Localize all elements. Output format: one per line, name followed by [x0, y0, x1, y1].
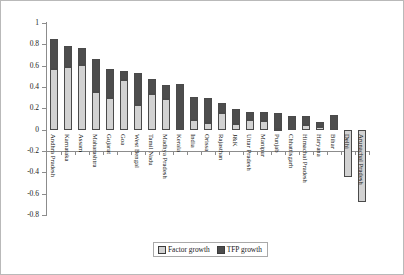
y-axis-tick — [42, 130, 46, 131]
bar-segment-factor-growth — [106, 98, 114, 130]
bar-segment-factor-growth — [302, 125, 310, 130]
x-axis-tick — [257, 151, 258, 155]
bar-orissa[interactable] — [204, 23, 212, 215]
bar-bihar[interactable] — [330, 23, 338, 215]
x-axis-label-india: India — [190, 134, 197, 148]
bar-segment-tfp-growth — [78, 48, 86, 65]
x-axis-tick — [369, 151, 370, 155]
y-axis-tick-label: -0.4 — [9, 168, 39, 176]
bar-segment-tfp-growth — [50, 39, 58, 69]
bar-maharashtra[interactable] — [92, 23, 100, 215]
legend-item-tfp-growth: TFP growth — [217, 245, 262, 254]
bar-goa[interactable] — [120, 23, 128, 215]
x-axis-label-bihar: Bihar — [330, 134, 337, 149]
dark-swatch-icon — [217, 246, 225, 254]
x-axis-tick — [89, 151, 90, 155]
x-axis-label-assam: Assam — [78, 134, 85, 152]
x-axis-label-rajasthan: Rajasthan — [218, 134, 225, 160]
x-axis-label-arunachal-pradesh: Arunachal Pradesh — [358, 134, 365, 185]
bar-madhya-pradesh[interactable] — [162, 23, 170, 215]
bar-segment-tfp-growth — [92, 59, 100, 93]
bar-assam[interactable] — [78, 23, 86, 215]
bar-segment-factor-growth — [50, 69, 58, 130]
y-axis-tick — [42, 44, 46, 45]
bar-segment-tfp-growth — [316, 122, 324, 127]
y-axis-tick — [42, 23, 46, 24]
bar-segment-factor-growth — [246, 120, 254, 130]
bar-andhra-pradesh[interactable] — [50, 23, 58, 215]
bar-segment-tfp-growth — [134, 73, 142, 105]
plot-area — [47, 23, 369, 215]
bar-segment-tfp-growth — [106, 69, 114, 97]
x-axis-tick — [103, 151, 104, 155]
bar-punjab[interactable] — [274, 23, 282, 215]
x-axis-tick — [201, 151, 202, 155]
bar-segment-tfp-growth — [148, 79, 156, 94]
bar-segment-factor-growth — [162, 99, 170, 130]
bar-rajasthan[interactable] — [218, 23, 226, 215]
bar-segment-tfp-growth — [288, 116, 296, 130]
x-axis-label-punjab: Punjab — [274, 134, 281, 153]
bar-uttar-pradesh[interactable] — [246, 23, 254, 215]
x-axis-tick — [117, 151, 118, 155]
bar-segment-factor-growth — [204, 123, 212, 130]
y-axis-tick-label: 0.8 — [9, 40, 39, 48]
bar-gujarat[interactable] — [106, 23, 114, 215]
y-axis-tick — [42, 87, 46, 88]
bar-delhi[interactable] — [344, 23, 352, 215]
y-axis-tick — [42, 151, 46, 152]
x-axis-tick — [341, 151, 342, 155]
bar-segment-tfp-growth — [260, 112, 268, 121]
bar-segment-factor-growth — [260, 121, 268, 130]
bar-himachal-pradesh[interactable] — [302, 23, 310, 215]
bar-haryana[interactable] — [316, 23, 324, 215]
x-axis-tick — [215, 151, 216, 155]
bar-segment-factor-growth — [120, 80, 128, 130]
x-axis-label-maharashtra: Maharashtra — [92, 134, 99, 168]
bar-segment-factor-growth — [218, 113, 226, 130]
bar-tamil-nadu[interactable] — [148, 23, 156, 215]
x-axis-label-delhi: Delhi — [344, 134, 351, 149]
x-axis-label-orissa: Orissa — [204, 134, 211, 151]
x-axis-label-chhattisgarh: Chhattisgarh — [288, 134, 295, 168]
x-axis-label-manipur: Manipur — [260, 134, 267, 157]
x-axis-label-uttar-pradesh: Uttar Pradesh — [246, 134, 253, 171]
bar-segment-tfp-growth — [64, 46, 72, 66]
bar-arunachal-pradesh[interactable] — [358, 23, 366, 215]
bar-manipur[interactable] — [260, 23, 268, 215]
y-axis-tick-label: -0.8 — [9, 211, 39, 219]
x-axis-tick — [131, 151, 132, 155]
x-axis-tick — [61, 151, 62, 155]
x-axis-tick — [327, 151, 328, 155]
y-axis-tick-label: 0.2 — [9, 104, 39, 112]
x-axis-label-andhra-pradesh: Andhra Pradesh — [50, 134, 57, 177]
bar-segment-tfp-growth — [218, 103, 226, 113]
bar-segment-tfp-growth — [162, 85, 170, 99]
x-axis-tick — [75, 151, 76, 155]
bar-kerala[interactable] — [176, 23, 184, 215]
bar-west-bengal[interactable] — [134, 23, 142, 215]
bar-karnataka[interactable] — [64, 23, 72, 215]
x-axis-label-haryana: Haryana — [316, 134, 323, 157]
chart-container: 10.80.60.40.20-0.2-0.4-0.6-0.8 Andhra Pr… — [0, 0, 404, 275]
y-axis-tick — [42, 172, 46, 173]
bar-j-k[interactable] — [232, 23, 240, 215]
bar-segment-factor-growth — [316, 127, 324, 130]
y-axis-tick-label: 0.4 — [9, 83, 39, 91]
y-axis-tick — [42, 194, 46, 195]
bar-segment-tfp-growth — [120, 71, 128, 80]
bar-india[interactable] — [190, 23, 198, 215]
bar-segment-factor-growth — [148, 94, 156, 130]
bar-segment-tfp-growth — [274, 113, 282, 130]
y-axis-tick-label: 1 — [9, 19, 39, 27]
bar-segment-factor-growth — [190, 120, 198, 130]
bar-segment-factor-growth — [232, 124, 240, 129]
chart-legend: Factor growth TFP growth — [153, 242, 268, 257]
x-axis-label-gujarat: Gujarat — [106, 134, 113, 154]
bar-segment-factor-growth — [78, 65, 86, 130]
bar-chhattisgarh[interactable] — [288, 23, 296, 215]
legend-label-factor-growth: Factor growth — [168, 245, 210, 254]
y-axis-tick — [42, 215, 46, 216]
x-axis-tick — [285, 151, 286, 155]
bar-segment-tfp-growth — [232, 109, 240, 124]
